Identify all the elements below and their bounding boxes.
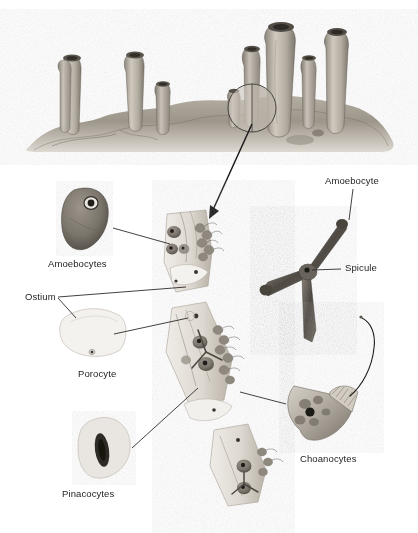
leader-ostium-upper [58, 287, 186, 297]
wall-segment-lower [210, 424, 283, 506]
label-amoebocytes: Amoebocytes [48, 259, 107, 269]
spicule-center-cell [304, 267, 309, 272]
sponge-colony-habitat [26, 22, 393, 152]
label-ostium: Ostium [25, 292, 56, 302]
sponge-wall-cross-section [164, 210, 283, 506]
label-spicule: Spicule [345, 263, 377, 273]
amoebocyte-cell-illustration [62, 188, 109, 250]
leader-pinacocytes [132, 388, 198, 448]
choanocyte-nucleus [305, 407, 314, 416]
wall-segment-upper [164, 210, 224, 292]
sponge-tube [58, 60, 71, 133]
leader-ostium-porocyte [58, 298, 76, 318]
leader-amoebocytes [113, 228, 170, 244]
label-amoebocyte: Amoebocyte [325, 176, 379, 186]
porocyte-cell-illustration [60, 309, 126, 357]
sponge-tube [155, 81, 170, 134]
figure-canvas: · [0, 0, 418, 533]
label-choanocytes: Choanocytes [300, 454, 357, 464]
spicule-illustration [260, 219, 349, 342]
choanocyte-illustration [288, 315, 375, 440]
label-pinacocytes: Pinacocytes [62, 489, 114, 499]
pinacocyte-cell-illustration [78, 417, 130, 478]
flagellum [350, 318, 374, 396]
label-porocyte: Porocyte [78, 369, 116, 379]
sponge-tube [301, 55, 316, 128]
leader-amoebocyte [349, 189, 353, 220]
leader-choanocytes [240, 392, 286, 404]
